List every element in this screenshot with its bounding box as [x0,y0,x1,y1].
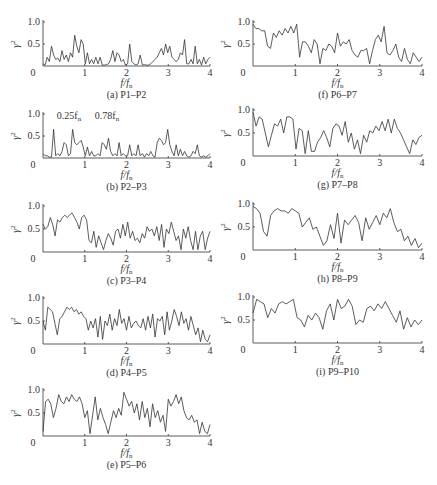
y-tick-label: 1.0 [28,384,41,395]
coherence-figure: 1.00.5γ201234f/fn(a) P1–P21.00.5γ201234f… [0,0,437,485]
x-tick-label: 1 [293,251,298,262]
x-tick-label: 1 [293,344,298,355]
y-axis-label: γ2 [219,223,231,231]
x-tick-label: 3 [166,437,171,448]
x-tick-label: 4 [208,159,213,170]
y-tick-label: 0.5 [238,221,251,232]
x-tick-label: 4 [208,345,213,356]
x-tick-label: 4 [420,157,425,168]
y-tick-label: 1.0 [28,16,41,27]
y-axis-label: γ2 [9,317,21,325]
coherence-line [43,213,210,250]
coherence-line [43,392,210,433]
panel-caption: (i) P9–P10 [316,366,359,378]
chart-panel-g: 1.00.5γ201234f/fn(g) P7–P8 [219,104,425,191]
coherence-line [43,129,210,157]
y-axis-label: γ2 [9,225,21,233]
y-tick-label: 1.0 [28,108,41,119]
y-axis-label: γ2 [9,40,21,48]
x-tick-label: 3 [166,67,171,78]
x-tick-label: 1 [293,157,298,168]
panel-caption: (d) P4–P5 [106,367,146,379]
chart-panel-e: 1.00.5γ201234f/fn(e) P5–P6 [9,384,213,471]
y-tick-label: 1.0 [238,198,251,209]
x-tick-label: 3 [377,251,382,262]
coherence-line [253,24,422,64]
coherence-line [253,112,422,153]
y-tick-label: 1.0 [28,200,41,211]
y-tick-label: 0.5 [238,38,251,49]
peak-annotation: 0.78fn [95,110,120,123]
coherence-line [253,206,422,247]
x-tick-label: 0 [31,159,36,170]
y-tick-label: 0.5 [238,314,251,325]
x-tick-label: 0 [31,253,36,264]
y-tick-label: 1.0 [238,16,251,27]
x-tick-label: 4 [208,253,213,264]
x-tick-label: 0 [241,344,246,355]
y-tick-label: 0.5 [28,407,41,418]
y-axis-label: γ2 [9,132,21,140]
x-tick-label: 0 [241,157,246,168]
x-tick-label: 0 [31,437,36,448]
x-tick-label: 1 [82,67,87,78]
x-tick-label: 3 [166,159,171,170]
y-axis-label: γ2 [219,316,231,324]
y-tick-label: 1.0 [238,291,251,302]
x-tick-label: 0 [241,67,246,78]
y-tick-label: 0.5 [28,315,41,326]
x-tick-label: 3 [377,344,382,355]
chart-panel-i: 1.00.5γ201234f/fn(i) P9–P10 [219,291,425,378]
y-tick-label: 0.5 [238,127,251,138]
y-axis-label: γ2 [219,40,231,48]
coherence-line [43,35,210,65]
x-tick-label: 0 [31,67,36,78]
panel-caption: (c) P3–P4 [107,275,147,287]
x-tick-label: 4 [420,344,425,355]
x-tick-label: 1 [293,67,298,78]
chart-panel-h: 1.00.5γ201234f/fn(h) P8–P9 [219,198,425,285]
chart-panel-c: 1.00.5γ201234f/fn(c) P3–P4 [9,200,213,287]
x-tick-label: 3 [377,157,382,168]
x-tick-label: 0 [31,345,36,356]
x-tick-label: 4 [208,67,213,78]
x-tick-label: 1 [82,437,87,448]
chart-panel-f: 1.00.5γ201234f/fn(f) P6–P7 [219,16,425,101]
x-tick-label: 4 [208,437,213,448]
y-tick-label: 1.0 [28,292,41,303]
y-axis-label: γ2 [9,409,21,417]
x-tick-label: 1 [82,159,87,170]
panel-caption: (a) P1–P2 [107,89,147,101]
peak-annotation: 0.25fn [57,110,82,123]
y-tick-label: 0.5 [28,130,41,141]
x-tick-label: 4 [420,67,425,78]
panel-caption: (b) P2–P3 [106,181,146,193]
y-tick-label: 0.5 [28,223,41,234]
y-tick-label: 0.5 [28,38,41,49]
panel-caption: (h) P8–P9 [317,273,357,285]
x-tick-label: 3 [377,67,382,78]
x-tick-label: 1 [82,345,87,356]
y-axis-label: γ2 [219,129,231,137]
panel-caption: (g) P7–P8 [317,179,357,191]
chart-panel-b: 1.00.5γ201234f/fn(b) P2–P30.25fn0.78fn [9,108,213,193]
x-tick-label: 3 [166,253,171,264]
panel-caption: (f) P6–P7 [318,89,357,101]
x-tick-label: 0 [241,251,246,262]
x-tick-label: 3 [166,345,171,356]
x-tick-label: 1 [82,253,87,264]
chart-panel-a: 1.00.5γ201234f/fn(a) P1–P2 [9,16,213,101]
coherence-line [253,299,422,329]
panel-caption: (e) P5–P6 [107,459,147,471]
chart-panel-d: 1.00.5γ201234f/fn(d) P4–P5 [9,292,213,379]
coherence-line [43,307,210,342]
y-tick-label: 1.0 [238,104,251,115]
x-tick-label: 4 [420,251,425,262]
